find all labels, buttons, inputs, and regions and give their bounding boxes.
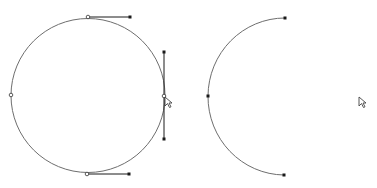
half-circle-path[interactable] [208,18,285,175]
anchor-top[interactable] [86,15,90,19]
bottom-handle-point[interactable] [128,173,131,176]
half-circle-group[interactable] [207,17,287,177]
direct-select-cursor-icon [165,97,172,108]
anchor-mid[interactable] [207,95,210,98]
anchor-left[interactable] [9,93,13,97]
anchor-start[interactable] [284,17,287,20]
direct-select-cursor-icon [359,97,366,108]
full-circle-group[interactable] [9,15,166,176]
top-handle-point[interactable] [129,16,132,19]
anchor-end[interactable] [283,174,286,177]
right-handle-point-upper[interactable] [163,51,166,54]
anchor-bottom[interactable] [85,172,89,176]
right-handle-point-lower[interactable] [163,138,166,141]
drawing-canvas[interactable] [0,0,377,188]
full-circle-path[interactable] [11,19,165,173]
